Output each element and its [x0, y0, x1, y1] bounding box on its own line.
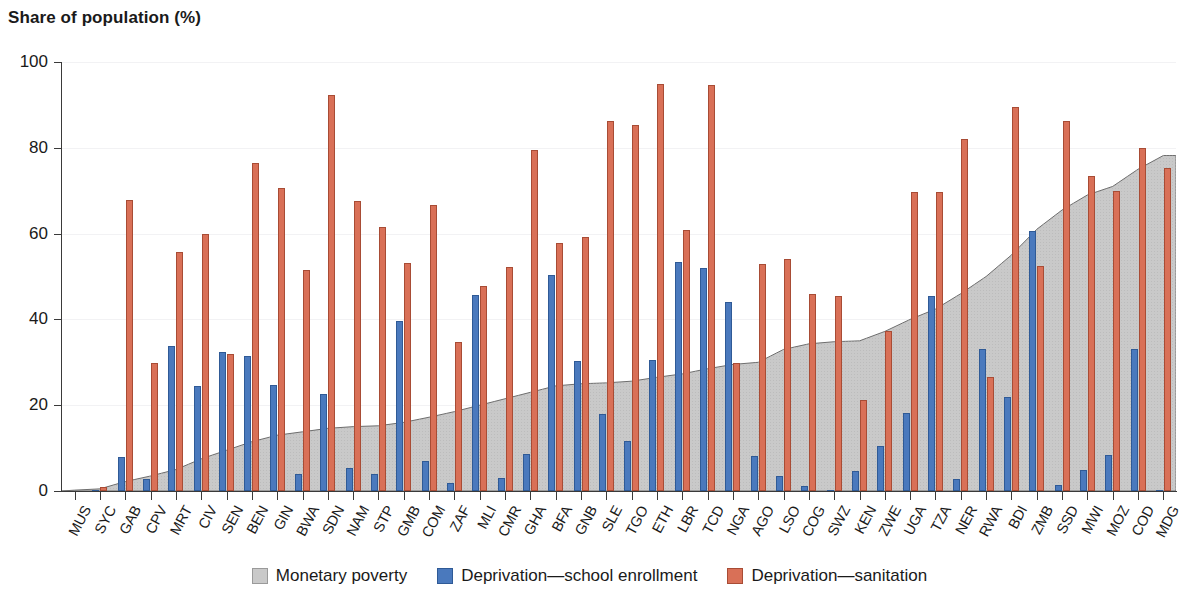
- bar-school-enrollment: [1131, 349, 1138, 491]
- bar-school-enrollment: [194, 386, 201, 491]
- bar-sanitation: [430, 205, 437, 491]
- x-tick-label: NGA: [723, 503, 752, 538]
- bar-sanitation: [885, 331, 892, 491]
- bar-sanitation: [784, 259, 791, 491]
- bar-sanitation: [278, 188, 285, 491]
- bar-sanitation: [404, 263, 411, 491]
- x-tick-label: MRT: [167, 503, 195, 537]
- x-tick-label: SEN: [218, 503, 246, 536]
- x-tick-mark: [151, 492, 152, 500]
- bar-school-enrollment: [700, 268, 707, 491]
- x-tick-mark: [328, 492, 329, 500]
- bar-sanitation: [227, 354, 234, 491]
- bar-sanitation: [582, 237, 589, 491]
- x-tick-mark: [530, 492, 531, 500]
- bar-school-enrollment: [599, 414, 606, 491]
- legend-label: Deprivation—school enrollment: [461, 566, 697, 586]
- x-tick-label: RWA: [976, 503, 1005, 539]
- x-tick-label: TGO: [622, 503, 651, 538]
- bar-sanitation: [632, 125, 639, 491]
- y-tick-label: 20: [0, 395, 48, 415]
- bar-sanitation: [1113, 191, 1120, 491]
- x-tick-label: COM: [419, 503, 449, 540]
- y-tick-mark: [54, 234, 62, 235]
- x-tick-label: COD: [1128, 503, 1157, 538]
- x-tick-label: ZWE: [875, 503, 904, 538]
- bar-school-enrollment: [219, 352, 226, 491]
- bar-sanitation: [531, 150, 538, 491]
- bar-school-enrollment: [498, 478, 505, 491]
- y-tick-label: 80: [0, 138, 48, 158]
- x-tick-mark: [935, 492, 936, 500]
- bar-sanitation: [936, 192, 943, 491]
- x-tick-label: ZAF: [447, 503, 474, 534]
- bar-sanitation: [556, 243, 563, 491]
- bar-school-enrollment: [1105, 455, 1112, 491]
- x-tick-mark: [708, 492, 709, 500]
- bar-school-enrollment: [979, 349, 986, 491]
- bar-school-enrollment: [574, 361, 581, 491]
- x-tick-mark: [303, 492, 304, 500]
- bar-school-enrollment: [371, 474, 378, 491]
- bar-sanitation: [455, 342, 462, 491]
- bar-sanitation: [480, 286, 487, 491]
- x-tick-mark: [480, 492, 481, 500]
- bar-sanitation: [759, 264, 766, 491]
- x-tick-label: AGO: [748, 503, 777, 538]
- bar-sanitation: [1164, 168, 1171, 491]
- bar-school-enrollment: [852, 471, 859, 491]
- y-tick-mark: [54, 148, 62, 149]
- x-tick-label: KEN: [851, 503, 879, 536]
- y-axis-title: Share of population (%): [8, 8, 201, 28]
- bar-sanitation: [202, 234, 209, 491]
- bar-school-enrollment: [1080, 470, 1087, 491]
- bar-school-enrollment: [447, 483, 454, 491]
- x-tick-label: TZA: [928, 503, 955, 534]
- bar-sanitation: [809, 294, 816, 491]
- x-tick-label: MDG: [1153, 503, 1179, 540]
- bar-school-enrollment: [295, 474, 302, 491]
- x-tick-mark: [556, 492, 557, 500]
- x-tick-mark: [606, 492, 607, 500]
- x-tick-mark: [682, 492, 683, 500]
- x-tick-mark: [885, 492, 886, 500]
- bar-sanitation: [1088, 176, 1095, 491]
- x-tick-label: GHA: [521, 503, 550, 538]
- bar-sanitation: [126, 200, 133, 491]
- x-tick-mark: [961, 492, 962, 500]
- x-tick-label: ZMB: [1028, 503, 1056, 537]
- x-tick-mark: [758, 492, 759, 500]
- bar-school-enrollment: [953, 479, 960, 491]
- chart-figure: Share of population (%) 020406080100 MUS…: [0, 0, 1179, 600]
- x-tick-label: BWA: [293, 503, 322, 539]
- y-tick-label: 100: [0, 52, 48, 72]
- x-tick-mark: [404, 492, 405, 500]
- legend-item[interactable]: Monetary poverty: [252, 566, 407, 586]
- blue-square-icon: [437, 568, 453, 584]
- bar-school-enrollment: [270, 385, 277, 491]
- x-tick-label: COG: [799, 503, 828, 539]
- x-tick-label: MLI: [474, 503, 499, 531]
- bar-school-enrollment: [877, 446, 884, 491]
- x-tick-label: CIV: [195, 503, 220, 531]
- bar-sanitation: [1063, 121, 1070, 491]
- y-tick-mark: [54, 405, 62, 406]
- x-tick-mark: [910, 492, 911, 500]
- x-tick-label: BEN: [243, 503, 271, 536]
- legend-item[interactable]: Deprivation—sanitation: [727, 566, 927, 586]
- x-tick-mark: [201, 492, 202, 500]
- legend-label: Monetary poverty: [276, 566, 407, 586]
- y-tick-mark: [54, 319, 62, 320]
- x-tick-mark: [1138, 492, 1139, 500]
- bar-sanitation: [328, 95, 335, 491]
- x-tick-label: MWI: [1079, 503, 1107, 536]
- x-tick-label: GAB: [116, 503, 144, 537]
- x-tick-mark: [733, 492, 734, 500]
- x-tick-label: CMR: [495, 503, 524, 539]
- bar-sanitation: [961, 139, 968, 491]
- legend-item[interactable]: Deprivation—school enrollment: [437, 566, 697, 586]
- x-tick-mark: [986, 492, 987, 500]
- bar-sanitation: [1012, 107, 1019, 491]
- y-tick-mark: [54, 62, 62, 63]
- bar-sanitation: [176, 252, 183, 491]
